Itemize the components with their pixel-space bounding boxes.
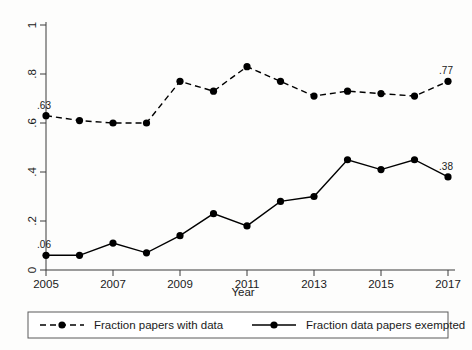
data-point-label: .06 [37,239,51,250]
data-point [411,92,418,99]
data-point [143,249,150,256]
data-point [210,88,217,95]
data-point [377,166,384,173]
x-tick-label: 2013 [301,278,327,290]
legend: Fraction papers with dataFraction data p… [28,312,465,338]
y-tick-group: 0.2.4.6.81 [26,22,46,273]
data-point-label: .38 [439,161,453,172]
data-point [210,210,217,217]
data-point [109,239,116,246]
line-chart: 0.2.4.6.81 2005200720092011201320152017 … [0,0,472,350]
data-point [310,193,317,200]
x-tick-label: 2017 [435,278,461,290]
y-tick-label: .8 [26,69,38,79]
data-point [42,112,49,119]
data-point [76,252,83,259]
y-tick-label: .6 [26,118,38,128]
data-point-label: .77 [439,65,453,76]
data-point [344,156,351,163]
series-layer [42,63,451,259]
legend-label-0: Fraction papers with data [94,319,224,331]
y-tick-label: 1 [26,22,38,28]
legend-marker [58,321,65,328]
data-point [176,232,183,239]
chart-container: 0.2.4.6.81 2005200720092011201320152017 … [0,0,472,350]
data-point-label: .63 [37,100,51,111]
legend-marker [270,321,277,328]
x-tick-label: 2007 [100,278,126,290]
annotation-layer: .63.77.06.38 [37,65,453,250]
series-line-0 [46,67,448,123]
data-point [109,119,116,126]
data-point [411,156,418,163]
x-axis-title: Year [231,286,254,298]
data-point [143,119,150,126]
data-point [76,117,83,124]
data-point [444,78,451,85]
data-point [42,252,49,259]
y-tick-label: .2 [26,216,38,226]
data-point [277,78,284,85]
data-point [310,92,317,99]
series-line-1 [46,160,448,256]
data-point [243,222,250,229]
y-tick-label: 0 [26,267,38,273]
x-tick-label: 2005 [33,278,59,290]
y-tick-label: .4 [26,167,38,177]
legend-label-1: Fraction data papers exempted [306,319,465,331]
x-tick-label: 2009 [167,278,193,290]
data-point [243,63,250,70]
data-point [377,90,384,97]
data-point [444,173,451,180]
x-tick-label: 2015 [368,278,394,290]
data-point [176,78,183,85]
x-axis: 2005200720092011201320152017 Year [33,270,461,298]
data-point [277,198,284,205]
data-point [344,88,351,95]
y-axis: 0.2.4.6.81 [26,22,46,273]
